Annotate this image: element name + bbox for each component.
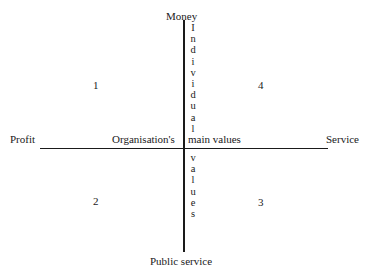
quadrant-4: 4 [258,79,264,91]
vertical-axis [183,20,185,252]
axis-label-right: Service [326,133,359,145]
quadrant-3: 3 [258,196,264,208]
axis-label-bottom: Public service [150,255,212,267]
center-label-left: Organisation's [112,133,175,145]
horizontal-axis [40,148,328,149]
center-label-right: main values [188,133,241,145]
quadrant-2: 2 [93,195,99,207]
axis-label-top: Money [166,10,197,22]
vertical-label-values: v a l u e s [189,152,197,219]
quadrant-1: 1 [93,79,99,91]
axis-label-left: Profit [10,133,35,145]
vertical-label-individual: I n d i v i d u a l [189,22,197,134]
